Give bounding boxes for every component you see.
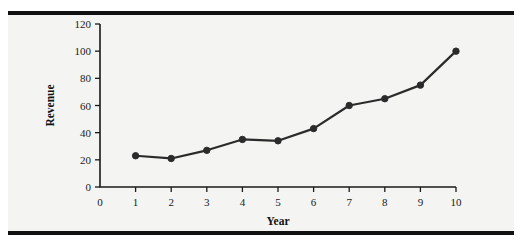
data-point bbox=[310, 125, 316, 131]
data-point bbox=[132, 153, 138, 159]
y-tick-label: 120 bbox=[75, 18, 92, 30]
x-axis-tick-group: 012345678910 bbox=[97, 187, 462, 208]
data-point bbox=[275, 138, 281, 144]
x-tick-label: 7 bbox=[346, 196, 352, 208]
x-tick-label: 5 bbox=[275, 196, 281, 208]
axis-spines bbox=[100, 24, 456, 187]
data-point bbox=[382, 96, 388, 102]
y-axis-title: Revenue bbox=[44, 84, 56, 126]
x-tick-label: 4 bbox=[240, 196, 246, 208]
bottom-rule bbox=[8, 231, 514, 235]
x-tick-label: 6 bbox=[311, 196, 317, 208]
line-chart: 020406080100120 012345678910 Revenue Yea… bbox=[8, 15, 514, 231]
data-point bbox=[239, 136, 245, 142]
y-tick-label: 80 bbox=[80, 72, 92, 84]
x-tick-label: 3 bbox=[204, 196, 210, 208]
data-point bbox=[346, 102, 352, 108]
y-tick-label: 60 bbox=[80, 100, 92, 112]
plot-panel: 020406080100120 012345678910 Revenue Yea… bbox=[8, 15, 514, 231]
x-tick-label: 0 bbox=[97, 196, 103, 208]
y-tick-label: 0 bbox=[86, 181, 92, 193]
y-tick-label: 40 bbox=[80, 127, 92, 139]
x-tick-label: 9 bbox=[418, 196, 424, 208]
x-axis-title: Year bbox=[267, 215, 290, 227]
y-axis-tick-group: 020406080100120 bbox=[75, 18, 101, 193]
x-tick-label: 1 bbox=[133, 196, 139, 208]
revenue-series-line bbox=[136, 51, 456, 158]
revenue-series-markers bbox=[132, 48, 459, 162]
data-point bbox=[168, 155, 174, 161]
x-tick-label: 2 bbox=[168, 196, 174, 208]
x-tick-label: 10 bbox=[451, 196, 463, 208]
y-tick-label: 20 bbox=[80, 154, 92, 166]
data-point bbox=[204, 147, 210, 153]
y-tick-label: 100 bbox=[75, 45, 92, 57]
data-point bbox=[417, 82, 423, 88]
figure-container: 020406080100120 012345678910 Revenue Yea… bbox=[0, 0, 522, 240]
data-point bbox=[453, 48, 459, 54]
x-tick-label: 8 bbox=[382, 196, 388, 208]
